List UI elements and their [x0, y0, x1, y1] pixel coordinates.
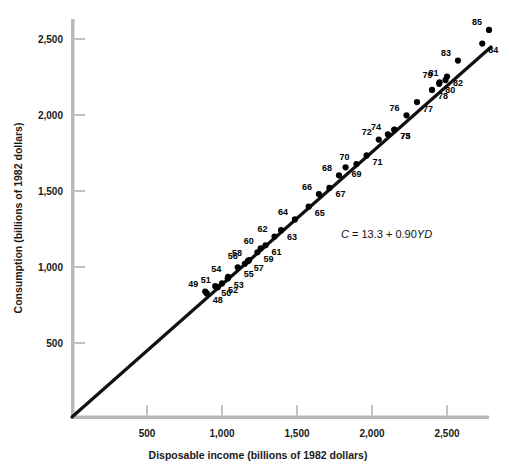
x-axis-spine [71, 416, 489, 420]
data-point-label-69: 69 [352, 169, 362, 179]
equation-part-c: C [341, 228, 349, 240]
data-point-72 [376, 137, 382, 143]
data-point-74 [385, 131, 391, 137]
data-point-70 [353, 161, 359, 167]
data-point-78 [429, 87, 435, 93]
data-point-49 [202, 289, 208, 295]
scatter-chart-figure: 2,500 2,000 1,500 1,000 500 500 1,000 1,… [0, 0, 509, 467]
data-point-71 [364, 152, 370, 158]
equation-part-yd: YD [417, 228, 432, 240]
data-point-67 [326, 185, 332, 191]
data-point-label-75: 75 [401, 131, 411, 141]
data-point-62 [271, 234, 277, 240]
data-point-69 [343, 164, 349, 170]
data-point-label-53: 53 [234, 280, 244, 290]
data-point-64 [292, 216, 298, 222]
y-axis-spine [71, 19, 75, 419]
data-point-54 [225, 274, 231, 280]
data-point-55 [235, 264, 241, 270]
data-point-63 [278, 227, 284, 233]
data-point-82 [444, 73, 450, 79]
data-point-label-66: 66 [302, 182, 312, 192]
data-point-label-74: 74 [371, 122, 381, 132]
y-tick-label-2000: 2,000 [38, 110, 63, 121]
x-tick-label-500: 500 [139, 428, 156, 439]
x-tick-label-2500: 2,500 [434, 428, 459, 439]
data-point-label-64: 64 [278, 207, 288, 217]
data-point-52 [219, 280, 225, 286]
data-point-label-63: 63 [287, 232, 297, 242]
data-point-68 [336, 172, 342, 178]
data-point-85 [486, 27, 492, 33]
data-point-84 [479, 40, 485, 46]
data-point-label-55: 55 [244, 269, 254, 279]
data-point-label-82: 82 [453, 78, 463, 88]
data-point-75 [391, 126, 397, 132]
data-point-label-71: 71 [373, 157, 383, 167]
data-point-83 [455, 57, 461, 63]
data-point-label-54: 54 [211, 264, 221, 274]
data-point-label-70: 70 [339, 152, 349, 162]
data-point-label-85: 85 [472, 17, 482, 27]
data-point-58 [246, 257, 252, 263]
y-tick-label-500: 500 [46, 338, 63, 349]
y-axis-title: Consumption (billions of 1982 dollars) [12, 123, 24, 314]
data-point-label-57: 57 [254, 263, 264, 273]
data-point-label-65: 65 [315, 208, 325, 218]
data-point-label-81: 81 [428, 68, 438, 78]
data-point-61 [262, 242, 268, 248]
data-point-label-62: 62 [257, 224, 267, 234]
data-point-label-51: 51 [201, 275, 211, 285]
data-point-label-60: 60 [244, 236, 254, 246]
data-point-80 [436, 81, 442, 87]
y-tick-label-1500: 1,500 [38, 186, 63, 197]
data-point-label-67: 67 [335, 189, 345, 199]
chart-svg: 2,500 2,000 1,500 1,000 500 500 1,000 1,… [0, 0, 509, 467]
data-point-label-76: 76 [389, 103, 399, 113]
x-tick-label-1500: 1,500 [284, 428, 309, 439]
data-point-65 [306, 204, 312, 210]
x-tick-label-2000: 2,000 [359, 428, 384, 439]
data-point-label-61: 61 [272, 247, 282, 257]
data-point-77 [414, 99, 420, 105]
data-point-label-49: 49 [188, 279, 198, 289]
data-point-76 [403, 112, 409, 118]
data-point-label-83: 83 [441, 48, 451, 58]
x-axis-title: Disposable income (billions of 1982 doll… [149, 449, 368, 461]
y-tick-label-1000: 1,000 [38, 262, 63, 273]
regression-equation-annotation: C = 13.3 + 0.90YD [341, 228, 432, 240]
data-point-66 [316, 191, 322, 197]
data-point-label-77: 77 [423, 104, 433, 114]
y-tick-label-2500: 2,500 [38, 34, 63, 45]
data-point-label-58: 58 [232, 248, 242, 258]
data-point-label-68: 68 [322, 163, 332, 173]
equation-part-mid: = 13.3 + 0.90 [349, 228, 417, 240]
data-point-label-84: 84 [488, 45, 498, 55]
x-tick-label-1000: 1,000 [209, 428, 234, 439]
